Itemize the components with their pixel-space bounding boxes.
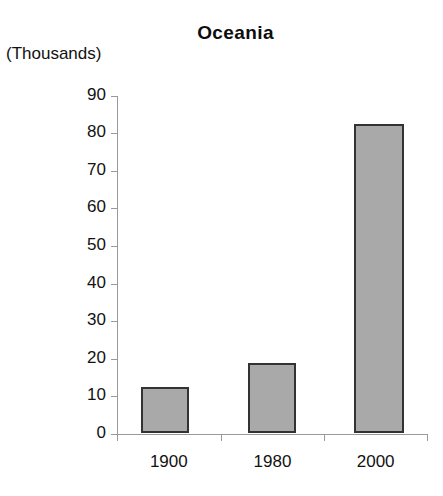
x-axis-tick	[427, 434, 428, 441]
axis-units-label: (Thousands)	[6, 44, 101, 64]
y-tick-group: 80	[117, 133, 118, 134]
y-axis-tick	[111, 133, 118, 134]
y-axis-tick-label: 20	[87, 348, 106, 368]
y-axis-tick-label: 40	[87, 273, 106, 293]
plot-area: 0 10 20 30 40 50 60 70	[117, 96, 428, 434]
x-axis-tick-label: 1980	[221, 452, 325, 472]
y-tick-group: 30	[117, 321, 118, 322]
y-tick-group: 50	[117, 246, 118, 247]
y-axis-tick-label: 60	[87, 197, 106, 217]
y-tick-group: 10	[117, 396, 118, 397]
bar	[141, 387, 189, 433]
y-tick-group: 60	[117, 208, 118, 209]
y-axis-tick	[111, 171, 118, 172]
bar	[354, 124, 404, 433]
y-axis-tick-label: 30	[87, 310, 106, 330]
y-tick-group: 70	[117, 171, 118, 172]
y-axis-tick-label: 80	[87, 122, 106, 142]
x-axis-line	[117, 434, 428, 435]
y-axis-tick-label: 50	[87, 235, 106, 255]
bar	[248, 363, 296, 433]
y-tick-group: 20	[117, 359, 118, 360]
y-axis-tick	[111, 208, 118, 209]
x-axis-tick	[117, 434, 118, 441]
chart-title: Oceania	[0, 22, 443, 44]
x-axis-tick-label: 2000	[324, 452, 427, 472]
x-axis-tick	[221, 434, 222, 441]
x-axis-tick-label: 1900	[117, 452, 221, 472]
y-axis-tick-label: 10	[87, 385, 106, 405]
y-axis-tick	[111, 359, 118, 360]
bar-chart-figure: Oceania (Thousands) 0 10 20 30 40 50	[0, 0, 443, 496]
y-axis-tick	[111, 321, 118, 322]
y-axis-tick-label: 0	[97, 423, 106, 443]
y-tick-group: 40	[117, 284, 118, 285]
y-axis-tick-label: 70	[87, 160, 106, 180]
y-axis-line	[117, 96, 118, 435]
x-axis-tick	[324, 434, 325, 441]
y-axis-tick	[111, 96, 118, 97]
y-axis-tick	[111, 396, 118, 397]
y-axis-tick	[111, 284, 118, 285]
y-tick-group: 90	[117, 96, 118, 97]
y-axis-tick	[111, 246, 118, 247]
y-axis-tick-label: 90	[87, 85, 106, 105]
